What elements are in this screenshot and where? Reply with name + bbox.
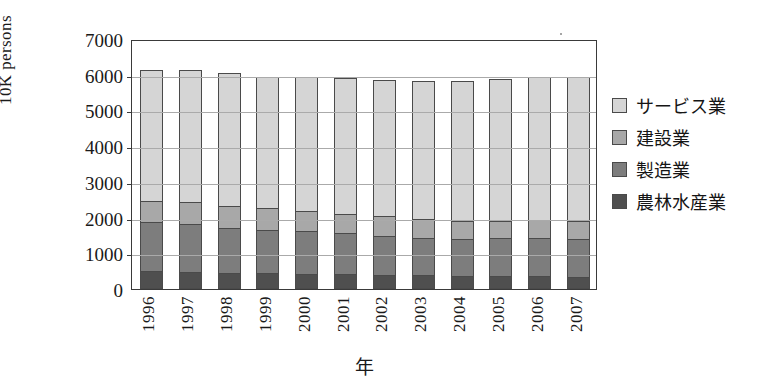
bar-segment[interactable] [451, 221, 474, 240]
bar-segment[interactable] [256, 77, 279, 209]
y-axis-title-label: 10K persons [0, 15, 16, 105]
bar-segment[interactable] [140, 222, 163, 272]
bar-segment[interactable] [567, 277, 590, 290]
bar-segment[interactable] [295, 77, 318, 212]
legend-label: サービス業 [636, 92, 726, 118]
bar-segment[interactable] [179, 202, 202, 226]
bar-segment[interactable] [412, 81, 435, 220]
bar-segment[interactable] [567, 77, 590, 222]
legend-swatch-icon [612, 194, 627, 209]
x-tick-label: 1998 [218, 296, 238, 332]
y-tick-mark [127, 255, 132, 256]
bar-segment[interactable] [179, 272, 202, 290]
stacked-bar-chart: 10K persons 0100020003000400050006000700… [0, 0, 770, 392]
legend-item[interactable]: 建設業 [612, 124, 726, 150]
bar-segment[interactable] [140, 70, 163, 202]
x-tick-label: 2001 [335, 296, 355, 332]
bar-segment[interactable] [334, 274, 357, 289]
bar-segment[interactable] [489, 221, 512, 240]
legend-item[interactable]: 農林水産業 [612, 188, 726, 214]
bar-segment[interactable] [451, 239, 474, 278]
y-tick-label: 1000 [61, 245, 123, 264]
x-tick-label: 2000 [296, 296, 316, 332]
bar-segment[interactable] [489, 276, 512, 289]
bar-segment[interactable] [256, 273, 279, 289]
legend-label: 農林水産業 [636, 188, 726, 214]
plot-area [131, 40, 597, 290]
x-tick-label: 2007 [568, 296, 588, 332]
y-tick-mark [127, 184, 132, 185]
y-tick-label: 2000 [61, 210, 123, 229]
scan-speck [560, 33, 562, 35]
bar-segment[interactable] [334, 78, 357, 216]
y-tick-label: 4000 [61, 138, 123, 157]
bar-segment[interactable] [451, 81, 474, 222]
gridline [132, 112, 596, 113]
y-tick-label: 6000 [61, 67, 123, 86]
x-tick-label: 1999 [257, 296, 277, 332]
x-axis-title: 年 [131, 352, 597, 379]
bar-segment[interactable] [179, 224, 202, 273]
y-tick-mark [127, 112, 132, 113]
x-tick-label: 1997 [179, 296, 199, 332]
x-tick-label: 2003 [412, 296, 432, 332]
gridline [132, 184, 596, 185]
bar-segment[interactable] [334, 214, 357, 234]
x-tick-label: 2005 [490, 296, 510, 332]
bar-segment[interactable] [451, 276, 474, 289]
bar-segment[interactable] [295, 231, 318, 276]
gridline [132, 255, 596, 256]
legend: サービス業建設業製造業農林水産業 [612, 92, 726, 220]
y-tick-mark [127, 148, 132, 149]
y-tick-mark [127, 77, 132, 78]
bars-layer [132, 41, 596, 289]
y-tick-mark [127, 220, 132, 221]
bar-segment[interactable] [256, 230, 279, 275]
bar-segment[interactable] [412, 219, 435, 239]
x-tick-label: 2002 [373, 296, 393, 332]
legend-label: 製造業 [636, 156, 690, 182]
gridline [132, 220, 596, 221]
y-tick-label: 3000 [61, 174, 123, 193]
bar-segment[interactable] [373, 275, 396, 289]
bar-segment[interactable] [218, 73, 241, 208]
bar-segment[interactable] [218, 206, 241, 229]
bar-segment[interactable] [140, 271, 163, 289]
legend-item[interactable]: サービス業 [612, 92, 726, 118]
y-tick-label: 0 [61, 281, 123, 300]
y-axis-title: 10K persons [6, 0, 30, 60]
bar-segment[interactable] [373, 236, 396, 276]
bar-segment[interactable] [567, 239, 590, 278]
bar-segment[interactable] [528, 77, 551, 221]
bar-segment[interactable] [528, 238, 551, 277]
x-tick-label: 2004 [451, 296, 471, 332]
bar-segment[interactable] [567, 221, 590, 240]
bar-segment[interactable] [218, 228, 241, 275]
y-tick-label: 7000 [61, 31, 123, 50]
legend-swatch-icon [612, 162, 627, 177]
legend-label: 建設業 [636, 124, 690, 150]
bar-segment[interactable] [489, 238, 512, 277]
bar-segment[interactable] [412, 238, 435, 277]
bar-segment[interactable] [528, 220, 551, 239]
bar-segment[interactable] [295, 274, 318, 289]
bar-segment[interactable] [295, 211, 318, 232]
bar-segment[interactable] [412, 275, 435, 289]
bar-segment[interactable] [218, 273, 241, 289]
legend-swatch-icon [612, 98, 627, 113]
x-tick-label: 1996 [140, 296, 160, 332]
bar-segment[interactable] [528, 276, 551, 289]
bar-segment[interactable] [489, 79, 512, 222]
legend-item[interactable]: 製造業 [612, 156, 726, 182]
gridline [132, 77, 596, 78]
x-tick-label: 2006 [529, 296, 549, 332]
bar-group[interactable] [218, 73, 241, 289]
legend-swatch-icon [612, 130, 627, 145]
gridline [132, 148, 596, 149]
y-tick-label: 5000 [61, 102, 123, 121]
